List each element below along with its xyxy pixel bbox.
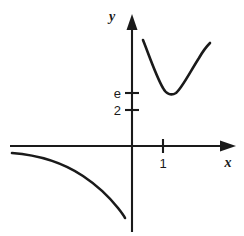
curve-branch-positive — [143, 40, 210, 94]
plot-canvas: y x e 2 1 — [0, 0, 244, 236]
y-tick-label-e: e — [114, 86, 121, 101]
y-axis — [127, 14, 138, 232]
x-axis — [10, 141, 236, 152]
y-axis-arrow-icon — [127, 14, 138, 30]
curve-branch-negative — [12, 153, 125, 218]
x-axis-label: x — [224, 155, 232, 170]
y-axis-label: y — [107, 9, 116, 24]
y-tick-label-2: 2 — [114, 103, 121, 118]
x-axis-arrow-icon — [220, 141, 236, 152]
function-graph-figure: y x e 2 1 — [0, 0, 244, 236]
x-tick-label-1: 1 — [159, 156, 166, 171]
